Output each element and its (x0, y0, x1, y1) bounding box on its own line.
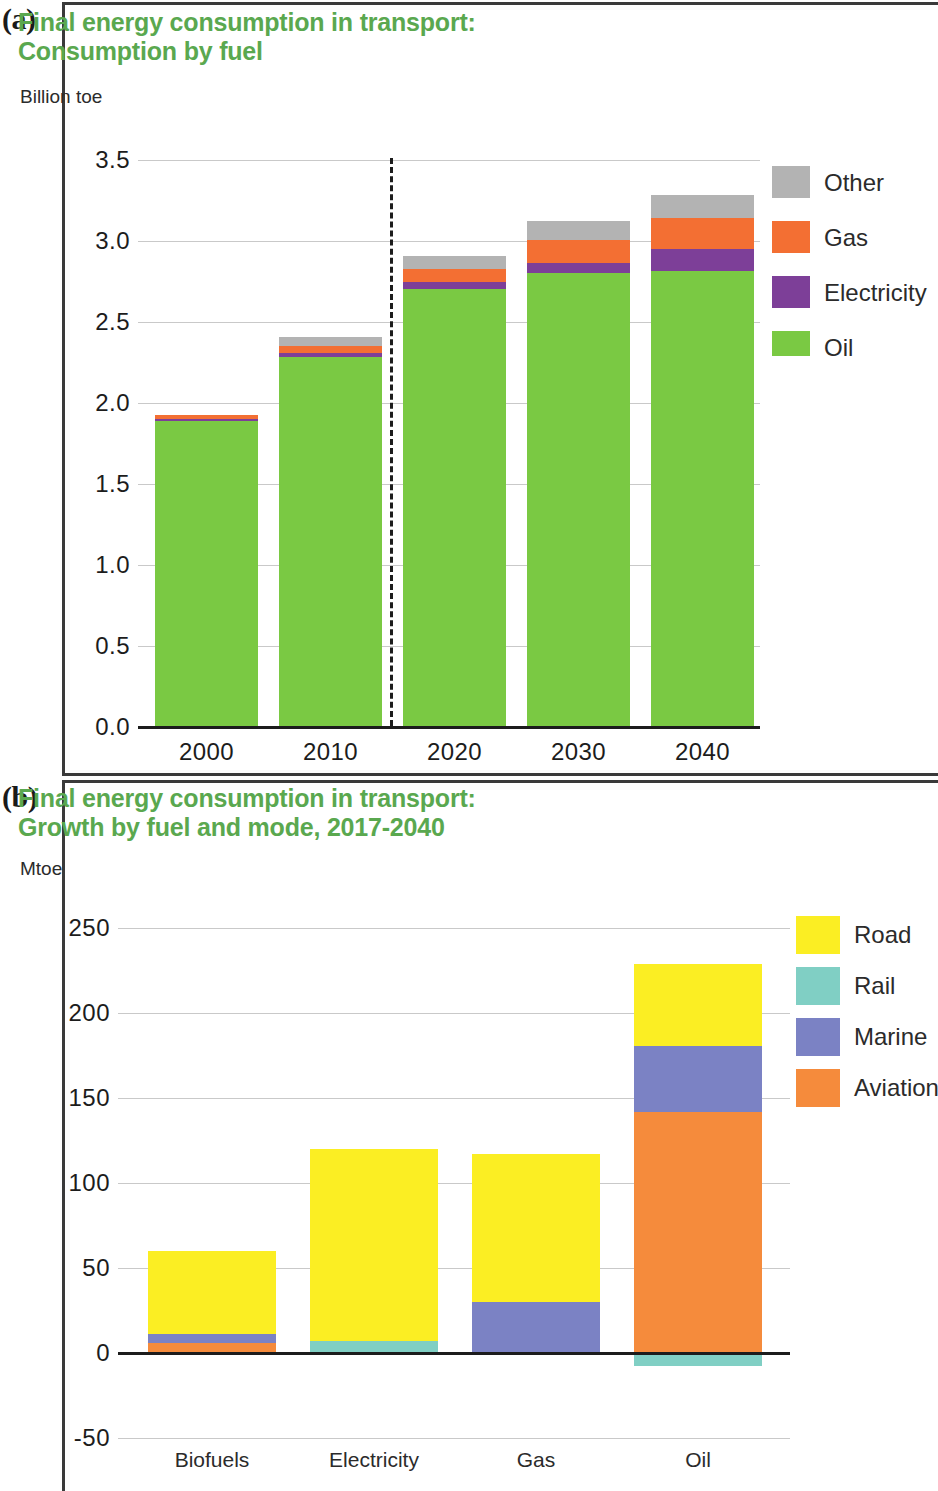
ytick-a-0.0: 0.0 (58, 713, 130, 741)
ytick-a-2.5: 2.5 (58, 308, 130, 336)
figure-root: (a) Final energy consumption in transpor… (0, 0, 938, 1491)
bar-b-oil[interactable] (634, 964, 762, 1353)
bar-segment-oil (651, 271, 754, 726)
legend-label-oil: Oil (824, 334, 853, 356)
bar-b-electricity[interactable] (310, 1149, 438, 1353)
gridline-a-3.5 (138, 160, 760, 161)
legend-swatch-road-icon (796, 916, 840, 954)
bar-a-2000[interactable] (155, 415, 258, 726)
xtick-a-2000: 2000 (155, 738, 258, 766)
gridline-b--50 (118, 1438, 790, 1439)
bar-segment-marine (148, 1334, 276, 1343)
bar-segment-oil (403, 289, 506, 726)
ytick-b-50: 50 (30, 1254, 110, 1282)
ytick-a-1.0: 1.0 (58, 551, 130, 579)
panel-a: (a) Final energy consumption in transpor… (0, 0, 938, 778)
xtick-a-2010: 2010 (279, 738, 382, 766)
bar-segment-gas (527, 240, 630, 263)
bar-segment-aviation (634, 1112, 762, 1353)
xtick-a-2040: 2040 (651, 738, 754, 766)
bar-a-2010[interactable] (279, 337, 382, 726)
ytick-a-3.0: 3.0 (58, 227, 130, 255)
ytick-a-0.5: 0.5 (58, 632, 130, 660)
bar-segment-road (634, 964, 762, 1046)
ytick-b--50: -50 (30, 1424, 110, 1452)
bar-segment-oil (279, 357, 382, 726)
panel-b: (b) Final energy consumption in transpor… (0, 778, 938, 1491)
legend-swatch-gas-icon (772, 221, 810, 253)
legend-swatch-electricity-icon (772, 276, 810, 308)
bar-b-gas[interactable] (472, 1154, 600, 1353)
legend-b: Road Rail Marine Aviation (796, 916, 938, 1116)
panel-a-plot: 3.5 3.0 2.5 2.0 1.5 1.0 0.5 0.0 (0, 0, 938, 778)
xtick-b-oil: Oil (634, 1448, 762, 1472)
bar-segment-marine (634, 1046, 762, 1112)
xtick-b-electricity: Electricity (302, 1448, 446, 1472)
bar-segment-electricity (527, 263, 630, 273)
gridline-b-250 (118, 928, 790, 929)
bar-segment-electricity (651, 249, 754, 271)
bar-segment-gas (279, 346, 382, 353)
legend-label-aviation: Aviation (854, 1074, 938, 1102)
ytick-b-100: 100 (30, 1169, 110, 1197)
bar-b-biofuels[interactable] (148, 1251, 276, 1353)
bar-segment-other (403, 256, 506, 269)
xtick-a-2030: 2030 (527, 738, 630, 766)
bar-segment-electricity (403, 282, 506, 289)
bar-segment-gas (403, 269, 506, 282)
xtick-b-biofuels: Biofuels (148, 1448, 276, 1472)
legend-a: Other Gas Electricity Oil (772, 166, 938, 356)
legend-label-electricity: Electricity (824, 279, 927, 307)
bar-segment-oil (155, 421, 258, 726)
ytick-b-0: 0 (30, 1339, 110, 1367)
bar-segment-road (148, 1251, 276, 1334)
zero-axis-b (118, 1352, 790, 1355)
bar-a-2030[interactable] (527, 221, 630, 726)
legend-label-gas: Gas (824, 224, 868, 252)
xtick-b-gas: Gas (472, 1448, 600, 1472)
ytick-a-2.0: 2.0 (58, 389, 130, 417)
history-projection-divider (390, 158, 393, 726)
ytick-a-3.5: 3.5 (58, 146, 130, 174)
legend-label-rail: Rail (854, 972, 895, 1000)
ytick-b-200: 200 (30, 999, 110, 1027)
legend-label-road: Road (854, 921, 911, 949)
ytick-b-250: 250 (30, 914, 110, 942)
legend-swatch-aviation-icon (796, 1069, 840, 1107)
bar-segment-gas (651, 218, 754, 249)
bar-segment-other (527, 221, 630, 240)
bar-segment-road (310, 1149, 438, 1341)
legend-swatch-rail-icon (796, 967, 840, 1005)
bar-segment-oil (527, 273, 630, 726)
ytick-b-150: 150 (30, 1084, 110, 1112)
bar-a-2040[interactable] (651, 195, 754, 726)
legend-label-marine: Marine (854, 1023, 927, 1051)
legend-swatch-marine-icon (796, 1018, 840, 1056)
panel-b-plot: 250 200 150 100 50 0 -50 (0, 778, 938, 1491)
bar-a-2020[interactable] (403, 256, 506, 726)
legend-swatch-other-icon (772, 166, 810, 198)
bar-segment-other (651, 195, 754, 218)
ytick-a-1.5: 1.5 (58, 470, 130, 498)
bar-segment-road (472, 1154, 600, 1302)
legend-label-other: Other (824, 169, 884, 197)
xtick-a-2020: 2020 (403, 738, 506, 766)
bar-segment-marine (472, 1302, 600, 1353)
bar-segment-other (279, 337, 382, 346)
legend-swatch-oil-icon (772, 331, 810, 356)
x-axis-a (138, 726, 760, 729)
